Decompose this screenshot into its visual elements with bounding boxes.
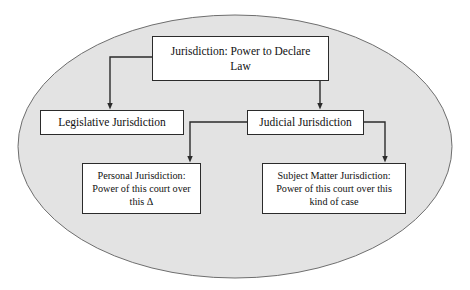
node-judicial-jurisdiction[interactable]: Judicial Jurisdiction xyxy=(247,110,364,135)
node-subject-matter-jurisdiction[interactable]: Subject Matter Jurisdiction: Power of th… xyxy=(262,163,406,214)
node-jurisdiction-root[interactable]: Jurisdiction: Power to Declare Law xyxy=(152,36,329,81)
node-label: Jurisdiction: Power to Declare Law xyxy=(153,44,328,73)
node-label: Judicial Jurisdiction xyxy=(248,115,363,130)
node-personal-jurisdiction[interactable]: Personal Jurisdiction: Power of this cou… xyxy=(82,163,201,214)
diagram-canvas: Jurisdiction: Power to Declare Law Legis… xyxy=(0,0,470,290)
node-legislative-jurisdiction[interactable]: Legislative Jurisdiction xyxy=(40,110,184,135)
node-label: Personal Jurisdiction: Power of this cou… xyxy=(83,169,200,208)
node-label: Subject Matter Jurisdiction: Power of th… xyxy=(263,169,405,208)
node-label: Legislative Jurisdiction xyxy=(41,115,183,130)
